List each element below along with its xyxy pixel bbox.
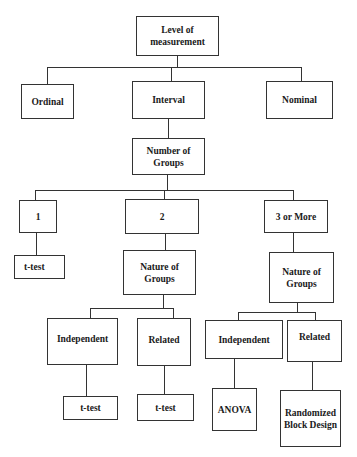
connector-nature3-indep [238,312,239,320]
connector-related2-ttest [164,365,165,394]
node-label: t-test [24,261,45,273]
node-label: Level of measurement [143,24,212,48]
node-ttest-one-group: t-test [14,255,65,279]
connector-1-to-ttest [36,232,37,255]
node-related-2: Related [137,318,191,366]
connector-nature2-bar [90,308,173,309]
node-label: Interval [152,94,185,106]
node-label: 3 or More [276,211,316,223]
node-nature-of-groups-3: Nature of Groups [269,252,334,303]
connector-group-2 [164,190,165,199]
node-independent-3: Independent [205,320,283,359]
connector-groups-down [167,174,168,190]
node-label: t-test [80,402,101,414]
connector-nature3-bar [238,312,315,313]
connector-nature3-related [315,312,316,320]
connector-interval [171,67,172,81]
node-groups-1: 1 [19,200,57,233]
connector-3-to-nature [293,232,294,252]
connector-level1-bar [47,67,301,68]
connector-indep3-anova [234,358,235,388]
node-label: 2 [160,211,165,223]
node-randomized-block-design: Randomized Block Design [280,390,341,447]
connector-root-down [177,55,178,67]
node-label: ANOVA [218,404,252,416]
node-label: Independent [57,333,108,345]
node-label: t-test [155,402,176,414]
connector-nature2-down [163,294,164,308]
node-label: Related [148,334,179,346]
connector-2-to-nature [165,233,166,250]
node-label: Randomized Block Design [283,407,338,431]
node-groups-2: 2 [125,199,199,234]
connector-nature3-down [297,302,298,312]
node-anova: ANOVA [212,388,257,431]
node-label: Nominal [282,94,317,106]
node-nominal: Nominal [266,81,333,119]
connector-nominal [301,67,302,81]
node-label: Independent [218,334,269,346]
node-groups-3-or-more: 3 or More [264,200,328,233]
node-nature-of-groups-2: Nature of Groups [123,250,196,295]
node-label: Number of Groups [143,145,194,169]
node-label: 1 [36,211,41,223]
node-related-3: Related [287,320,342,362]
connector-group-3 [293,190,294,200]
node-label: Nature of Groups [278,266,325,290]
connector-interval-to-groups [168,118,169,138]
node-ordinal: Ordinal [21,84,74,119]
node-number-of-groups: Number of Groups [132,138,205,175]
node-ttest-independent: t-test [63,396,118,420]
connector-indep2-ttest [86,364,87,396]
node-label: Related [299,331,330,343]
connector-group-1 [35,190,36,200]
node-ttest-related: t-test [137,394,194,421]
node-label: Ordinal [31,96,63,108]
node-interval: Interval [132,81,205,119]
connector-ordinal [47,67,48,84]
node-level-of-measurement: Level of measurement [136,16,219,56]
node-independent-2: Independent [47,318,118,365]
node-label: Nature of Groups [136,261,183,285]
connector-nature2-related [173,308,174,318]
connector-nature2-indep [90,308,91,318]
connector-related3-rbd [312,361,313,390]
